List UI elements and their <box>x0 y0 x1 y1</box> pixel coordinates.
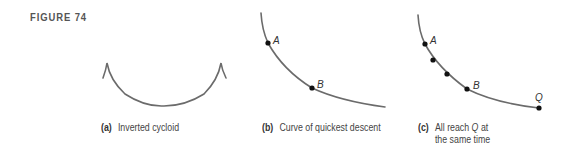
panel-a-inverted-cycloid <box>103 63 226 106</box>
point-b-dot <box>464 86 469 91</box>
intermediate-dot <box>444 71 449 76</box>
point-a-label: A <box>429 35 437 46</box>
caption-c-line1: All reach <box>435 122 469 133</box>
panel-b-descent-curve: A B <box>261 13 385 107</box>
point-b-dot <box>309 85 314 90</box>
caption-b-text: Curve of quickest descent <box>279 122 380 133</box>
intermediate-dot <box>430 57 435 62</box>
caption-a-text: Inverted cycloid <box>118 122 179 133</box>
point-a-label: A <box>272 35 280 46</box>
point-b-label: B <box>317 79 324 90</box>
caption-c: (c)All reach Q atthe same time <box>418 122 490 146</box>
panel-c-tautochrone: A B Q <box>418 15 543 111</box>
point-b-label: B <box>473 80 480 91</box>
caption-b: (b)Curve of quickest descent <box>262 122 381 134</box>
caption-a: (a)Inverted cycloid <box>101 122 179 134</box>
caption-c-tag: (c) <box>418 122 429 133</box>
caption-c-line2: the same time <box>435 134 490 145</box>
caption-c-line1-end: at <box>481 122 488 133</box>
point-a-dot <box>265 40 270 45</box>
caption-a-tag: (a) <box>101 122 112 133</box>
point-q-label: Q <box>535 92 543 103</box>
caption-c-body: All reach Q atthe same time <box>435 122 490 146</box>
point-q-dot <box>536 105 541 110</box>
caption-c-q: Q <box>472 122 479 133</box>
caption-b-tag: (b) <box>262 122 273 133</box>
point-a-dot <box>422 41 427 46</box>
